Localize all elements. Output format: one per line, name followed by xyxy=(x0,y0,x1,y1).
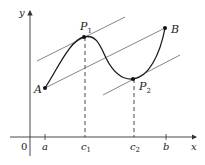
origin-label: 0 xyxy=(21,141,27,152)
point-b xyxy=(163,26,167,30)
point-a xyxy=(43,86,47,90)
tick-label-c1: c1 xyxy=(81,141,91,154)
label-p1: P1 xyxy=(79,20,92,35)
tick-label-c2: c2 xyxy=(130,141,140,154)
y-axis-label: y xyxy=(18,7,25,18)
label-a: A xyxy=(33,83,42,96)
label-b: B xyxy=(170,23,179,36)
x-axis-label: x xyxy=(191,141,197,152)
label-p2: P2 xyxy=(138,80,151,95)
tick-label-a: a xyxy=(42,141,48,152)
point-p2 xyxy=(131,77,135,81)
point-p1 xyxy=(82,35,86,39)
mvt-diagram: A B P1 P2 y x 0 a c1 c2 b xyxy=(0,0,205,165)
tick-label-b: b xyxy=(163,141,169,152)
